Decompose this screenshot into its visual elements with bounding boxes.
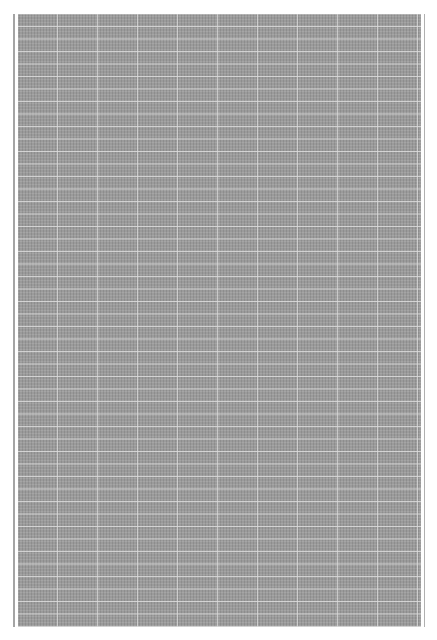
scanned-page: [0, 0, 437, 640]
left-margin-rule: [13, 14, 15, 627]
right-margin-rule: [424, 14, 425, 627]
graph-paper-grid: [18, 14, 421, 627]
